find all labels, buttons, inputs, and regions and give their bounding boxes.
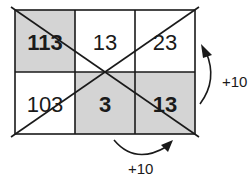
bottom-arrow-label: +10 (128, 160, 153, 177)
right-arrow-label: +10 (222, 73, 247, 90)
right-curved-arrow-icon (200, 44, 212, 104)
bottom-curved-arrow-icon (114, 140, 173, 155)
cell-r1c0: 103 (27, 92, 64, 117)
cell-r0c0: 113 (27, 30, 63, 55)
magic-square-diagram: 113 13 23 103 3 13 +10 +10 (0, 0, 252, 180)
cell-r1c2: 13 (153, 92, 177, 117)
cell-r0c2: 23 (153, 30, 177, 55)
cell-r0c1: 13 (93, 30, 117, 55)
cell-r1c1: 3 (99, 92, 111, 117)
